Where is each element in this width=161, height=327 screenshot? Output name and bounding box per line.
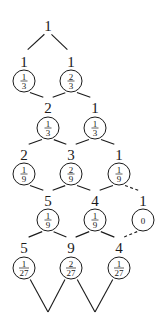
probability-denominator: 27 bbox=[67, 268, 77, 278]
edge-r4c1-r5c0 bbox=[29, 232, 43, 237]
edge-r2c1-r3c2 bbox=[54, 140, 66, 145]
node-r3c0: 219 bbox=[13, 147, 35, 185]
node-count: 2 bbox=[20, 147, 28, 163]
probability-denominator: 9 bbox=[22, 174, 27, 184]
probability-numerator: 1 bbox=[117, 259, 122, 269]
probability-denominator: 27 bbox=[20, 268, 30, 278]
node-count: 2 bbox=[44, 100, 52, 116]
probability-numerator: 2 bbox=[69, 165, 74, 175]
edge-r5c4-open-bottom-3 bbox=[95, 279, 113, 312]
node-count: 1 bbox=[115, 147, 123, 163]
node-r4c5: 10 bbox=[132, 193, 154, 231]
node-count: 1 bbox=[91, 100, 99, 116]
probability-numerator: 1 bbox=[22, 259, 27, 269]
edge-r4c5-r5c4 bbox=[124, 232, 138, 237]
node-r5c4: 4127 bbox=[108, 240, 130, 279]
probability-numerator: 2 bbox=[69, 259, 74, 269]
probability-denominator: 3 bbox=[22, 81, 27, 91]
edge-r1c0-r2c1 bbox=[30, 93, 43, 98]
edge-root-r1c0 bbox=[28, 34, 45, 49]
probability-denominator: 9 bbox=[93, 220, 98, 230]
probability-numerator: 1 bbox=[46, 211, 51, 221]
probability-numerator: 1 bbox=[117, 165, 122, 175]
node-count: 4 bbox=[115, 240, 123, 256]
lattice-diagram: 1113123213113219329119519419105127922741… bbox=[0, 0, 161, 327]
probability-numerator: 1 bbox=[46, 119, 51, 129]
probability-denominator: 9 bbox=[69, 174, 74, 184]
node-r4c1: 519 bbox=[37, 193, 59, 231]
edge-r4c3-r5c2 bbox=[76, 232, 90, 237]
probability-denominator: 9 bbox=[117, 174, 122, 184]
node-r5c0: 5127 bbox=[13, 240, 35, 279]
node-r1c2: 123 bbox=[60, 54, 82, 92]
node-count: 5 bbox=[44, 193, 52, 209]
probability-numerator: 1 bbox=[22, 72, 27, 82]
node-count: 3 bbox=[67, 147, 75, 163]
edge-r1c2-r2c1 bbox=[53, 93, 66, 98]
node-count: 5 bbox=[20, 240, 28, 256]
edge-root-r1c2 bbox=[51, 34, 67, 49]
nodes: 1113123213113219329119519419105127922741… bbox=[13, 18, 154, 279]
edge-r3c4-r4c3 bbox=[100, 186, 113, 191]
node-count: 1 bbox=[139, 193, 147, 209]
edge-r5c0-open-bottom-1 bbox=[30, 279, 48, 312]
probability-numerator: 1 bbox=[93, 119, 98, 129]
edge-r3c0-r4c1 bbox=[30, 186, 43, 191]
edge-r1c2-r2c3 bbox=[77, 93, 90, 98]
probability-numerator: 2 bbox=[69, 72, 74, 82]
node-count: 9 bbox=[67, 240, 75, 256]
node-r5c2: 9227 bbox=[60, 240, 82, 279]
edge-r3c4-r4c5 bbox=[125, 186, 138, 191]
edge-r3c2-r4c3 bbox=[77, 186, 90, 191]
probability-denominator: 3 bbox=[46, 128, 51, 138]
edge-r4c1-r5c2 bbox=[54, 232, 67, 237]
root-count: 1 bbox=[44, 18, 52, 34]
node-r1c0: 113 bbox=[13, 54, 35, 92]
probability-denominator: 3 bbox=[69, 81, 74, 91]
node-r2c3: 113 bbox=[84, 100, 106, 139]
edge-r2c3-r3c4 bbox=[101, 140, 114, 145]
probability-value: 0 bbox=[141, 216, 146, 226]
probability-numerator: 1 bbox=[22, 165, 27, 175]
node-count: 1 bbox=[67, 54, 75, 70]
probability-denominator: 3 bbox=[93, 128, 98, 138]
edge-r3c2-r4c1 bbox=[53, 186, 65, 191]
node-r3c4: 119 bbox=[108, 147, 130, 185]
node-r3c2: 329 bbox=[60, 147, 82, 185]
edge-r5c2-open-bottom-3 bbox=[77, 279, 95, 312]
probability-denominator: 9 bbox=[46, 220, 51, 230]
edge-r2c3-r3c2 bbox=[76, 140, 89, 145]
node-r2c1: 213 bbox=[37, 100, 59, 139]
node-count: 4 bbox=[91, 193, 99, 209]
probability-denominator: 27 bbox=[115, 268, 125, 278]
edge-r4c3-r5c4 bbox=[101, 232, 115, 237]
probability-numerator: 1 bbox=[93, 211, 98, 221]
node-count: 1 bbox=[20, 54, 28, 70]
edge-r5c2-open-bottom-1 bbox=[48, 280, 65, 312]
edge-r2c1-r3c0 bbox=[29, 140, 42, 145]
node-r4c3: 419 bbox=[84, 193, 106, 231]
